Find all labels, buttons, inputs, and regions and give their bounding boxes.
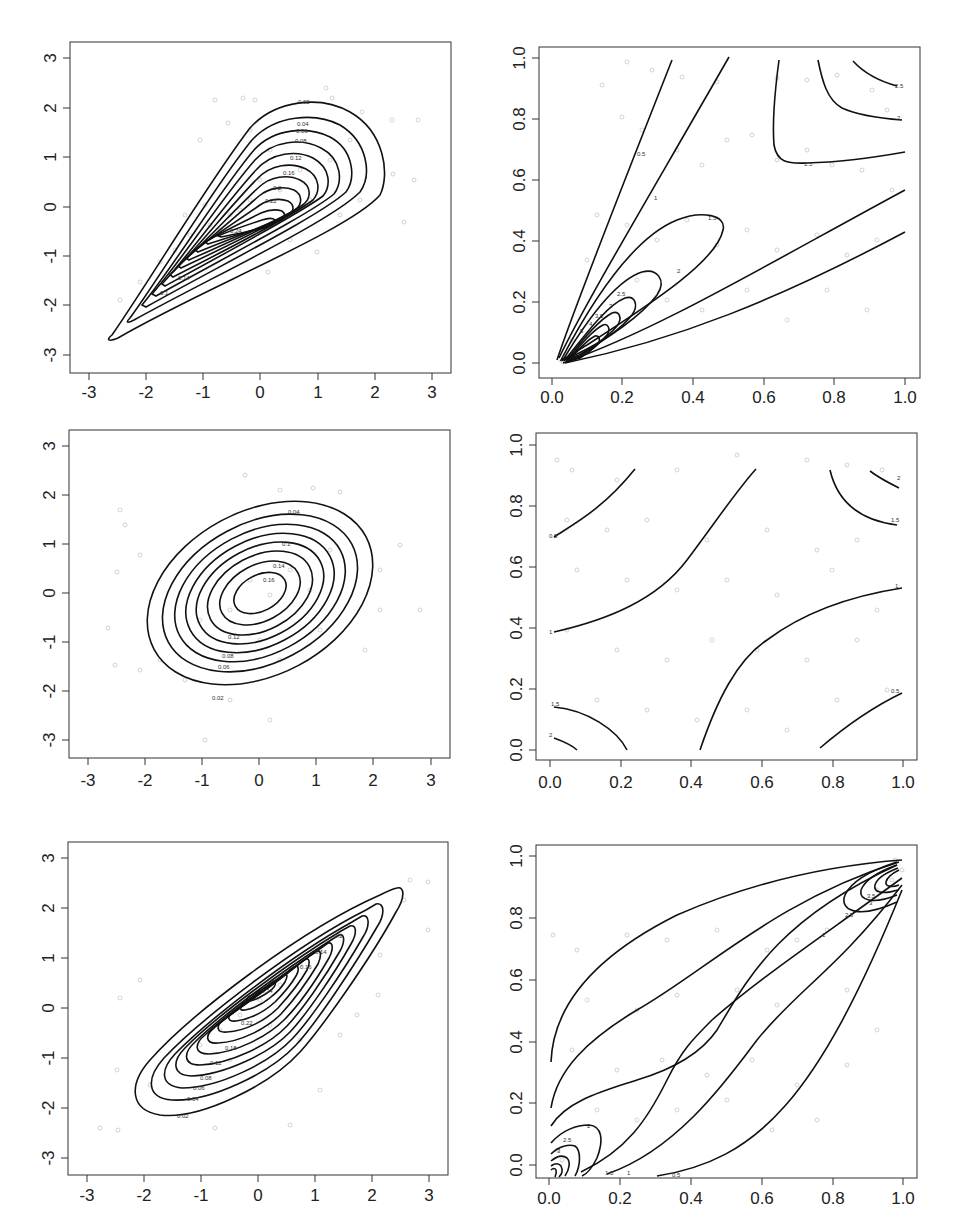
scatter-points: [561, 60, 894, 364]
contour-lines: [557, 57, 905, 363]
svg-text:0.0: 0.0: [540, 388, 564, 407]
svg-text:2: 2: [40, 490, 59, 499]
svg-text:0.16: 0.16: [300, 964, 312, 970]
svg-text:0.0: 0.0: [507, 738, 526, 762]
svg-text:0.6: 0.6: [750, 1189, 774, 1208]
svg-text:0.1: 0.1: [160, 290, 169, 296]
svg-text:3: 3: [427, 383, 436, 402]
svg-text:0.1: 0.1: [282, 541, 291, 547]
svg-text:0.06: 0.06: [218, 664, 230, 670]
svg-text:0.4: 0.4: [507, 1030, 526, 1054]
svg-text:2: 2: [368, 771, 377, 790]
svg-text:0.6: 0.6: [507, 968, 526, 992]
svg-text:0.2: 0.2: [510, 290, 529, 314]
svg-text:2: 2: [41, 103, 60, 112]
svg-text:1: 1: [310, 1186, 319, 1205]
svg-text:1.0: 1.0: [891, 773, 915, 792]
svg-text:0.0: 0.0: [510, 351, 529, 375]
svg-text:0: 0: [41, 202, 60, 211]
svg-text:0.2: 0.2: [273, 185, 282, 191]
svg-text:-1: -1: [193, 1186, 208, 1205]
y-tick-labels: 1.0 0.8 0.6 0.4 0.2 0.0: [510, 46, 529, 375]
x-tick-labels: 0.0 0.2 0.4 0.6 0.8 1.0: [538, 773, 915, 792]
svg-text:0.04: 0.04: [288, 509, 300, 515]
svg-text:3: 3: [39, 853, 58, 862]
svg-text:1.0: 1.0: [510, 46, 529, 70]
svg-text:-3: -3: [40, 732, 59, 747]
svg-text:0.5: 0.5: [637, 151, 646, 157]
svg-text:3: 3: [426, 771, 435, 790]
svg-text:0.02: 0.02: [298, 99, 310, 105]
svg-text:0: 0: [40, 588, 59, 597]
svg-text:0.8: 0.8: [821, 1189, 845, 1208]
svg-text:-1: -1: [194, 771, 209, 790]
svg-text:-3: -3: [81, 383, 96, 402]
svg-text:0.2: 0.2: [610, 388, 634, 407]
svg-text:2.5: 2.5: [845, 912, 854, 918]
svg-text:2.5: 2.5: [563, 1137, 572, 1143]
svg-text:1.0: 1.0: [507, 844, 526, 868]
svg-text:0.4: 0.4: [510, 229, 529, 253]
svg-text:-2: -2: [136, 1186, 151, 1205]
svg-text:0.16: 0.16: [283, 170, 295, 176]
x-axis: [87, 1175, 429, 1182]
y-axis: [63, 58, 70, 355]
contour-lines: [554, 469, 902, 750]
svg-text:-1: -1: [40, 634, 59, 649]
svg-text:0.24: 0.24: [230, 228, 242, 234]
svg-text:0.6: 0.6: [510, 168, 529, 192]
svg-text:-2: -2: [41, 297, 60, 312]
plot-frame: [69, 430, 450, 758]
x-tick-labels: 0.0 0.2 0.4 0.6 0.8 1.0: [537, 1189, 915, 1208]
svg-text:-1: -1: [39, 1050, 58, 1065]
svg-text:2: 2: [367, 1186, 376, 1205]
contour-labels: 0.5 1 1.5 2 2.5 3 3.5 4 5 1.5 2 2.5: [580, 83, 904, 334]
svg-text:0.08: 0.08: [222, 653, 234, 659]
plot-frame: [68, 842, 448, 1175]
y-tick-labels: 3 2 1 0 -1 -2 -3: [41, 53, 60, 362]
svg-text:0.12: 0.12: [210, 1060, 222, 1066]
y-tick-labels: 3 2 1 0 -1 -2 -3: [40, 441, 59, 747]
svg-text:1.0: 1.0: [507, 433, 526, 457]
x-axis: [88, 758, 431, 765]
svg-text:3.5: 3.5: [867, 893, 876, 899]
contour-lines: [109, 102, 385, 340]
svg-text:0.2: 0.2: [507, 1091, 526, 1115]
svg-text:0.0: 0.0: [538, 773, 562, 792]
svg-text:1.5: 1.5: [804, 161, 813, 167]
y-axis: [62, 446, 69, 740]
svg-text:0.04: 0.04: [187, 1096, 199, 1102]
plot-row2-left: 0.04 0.1 0.14 0.16 0.12 0.08 0.06 0.02 -…: [0, 410, 477, 820]
svg-text:0.8: 0.8: [507, 906, 526, 930]
svg-text:-2: -2: [40, 683, 59, 698]
contour-lines: [135, 888, 403, 1116]
svg-text:0.0: 0.0: [537, 1189, 561, 1208]
svg-text:0.14: 0.14: [273, 563, 285, 569]
svg-text:2: 2: [549, 732, 553, 738]
x-axis: [89, 373, 432, 380]
svg-text:0: 0: [255, 383, 264, 402]
svg-text:2: 2: [370, 383, 379, 402]
svg-text:1.0: 1.0: [893, 388, 917, 407]
svg-text:1.5: 1.5: [605, 1170, 614, 1176]
svg-text:1: 1: [40, 539, 59, 548]
svg-text:-3: -3: [41, 347, 60, 362]
svg-text:0.08: 0.08: [200, 1075, 212, 1081]
svg-text:0.8: 0.8: [822, 388, 846, 407]
svg-text:0.02: 0.02: [177, 1113, 189, 1119]
svg-text:0.2: 0.2: [609, 773, 633, 792]
plot-frame: [70, 42, 451, 373]
svg-text:-1: -1: [195, 383, 210, 402]
svg-text:0.5: 0.5: [672, 1172, 681, 1178]
contour-lines: [116, 464, 405, 721]
y-axis: [532, 58, 539, 363]
svg-text:1: 1: [549, 629, 553, 635]
plot-row3-left: 0.1 0.14 0.16 0.24 0.22 0.18 0.12 0.08 0…: [0, 820, 477, 1228]
svg-text:0.14: 0.14: [178, 275, 190, 281]
svg-text:0.04: 0.04: [297, 121, 309, 127]
y-axis: [61, 858, 68, 1158]
svg-text:1.0: 1.0: [891, 1189, 915, 1208]
svg-text:0.4: 0.4: [679, 773, 703, 792]
scatter-points: [551, 858, 904, 1162]
svg-text:0.4: 0.4: [679, 1189, 703, 1208]
